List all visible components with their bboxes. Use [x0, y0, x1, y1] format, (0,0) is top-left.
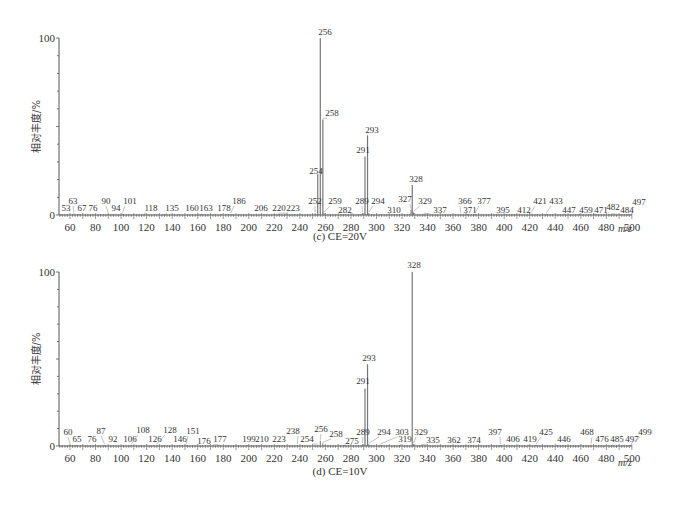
peak-label: 319 — [398, 434, 412, 444]
peak-label: 337 — [433, 205, 447, 215]
x-tick-label: 140 — [164, 452, 181, 464]
peak-label: 256 — [314, 424, 328, 434]
peak-label: 275 — [345, 436, 359, 446]
peak-label: 294 — [371, 196, 385, 206]
x-tick-label: 120 — [138, 452, 155, 464]
x-tick-label: 60 — [65, 452, 77, 464]
x-tick-label: 400 — [496, 221, 513, 233]
peak-label: 186 — [232, 196, 246, 206]
peak-label: 327 — [398, 194, 412, 204]
x-tick-label: 80 — [90, 452, 102, 464]
x-tick-label: 320 — [394, 452, 411, 464]
x-tick-label: 200 — [241, 452, 258, 464]
peak-label: 294 — [377, 427, 391, 437]
x-tick-label: 280 — [343, 452, 360, 464]
peak-label: 177 — [213, 434, 227, 444]
x-tick-label: 300 — [368, 452, 385, 464]
peak-label: 92 — [109, 434, 118, 444]
peak-label: 362 — [447, 435, 461, 445]
peak-label: 328 — [409, 174, 423, 184]
peak-label: 468 — [580, 427, 594, 437]
x-tick-label: 220 — [266, 452, 283, 464]
peak-label: 329 — [418, 196, 432, 206]
peak-label: 176 — [197, 436, 211, 446]
x-tick-label: 240 — [292, 221, 309, 233]
x-tick-label: 340 — [419, 221, 436, 233]
x-tick-label: 340 — [419, 452, 436, 464]
peak-label: 67 — [78, 203, 88, 213]
x-tick-label: 420 — [521, 452, 538, 464]
x-tick-label: 480 — [598, 452, 615, 464]
peak-label: 160 — [185, 203, 199, 213]
peak-label: 223 — [286, 203, 300, 213]
peak-label: 65 — [73, 434, 83, 444]
y-tick-label: 0 — [50, 440, 56, 452]
x-tick-label: 60 — [65, 221, 77, 233]
peak-label: 419 — [523, 434, 537, 444]
peak-label: 335 — [426, 435, 440, 445]
peak-label: 406 — [506, 434, 520, 444]
peak-label: 101 — [123, 196, 137, 206]
x-tick-label: 100 — [113, 452, 130, 464]
x-tick-label: 440 — [547, 452, 564, 464]
x-tick-label: 220 — [266, 221, 283, 233]
x-axis-title: m/z — [618, 223, 632, 234]
peak-label: 90 — [102, 196, 112, 206]
x-tick-label: 320 — [394, 221, 411, 233]
y-tick-label: 0 — [50, 209, 56, 221]
peak-label: 258 — [329, 429, 343, 439]
x-tick-label: 200 — [241, 221, 258, 233]
panel-caption: (d) CE=10V — [313, 465, 368, 478]
x-tick-label: 140 — [164, 221, 181, 233]
x-tick-label: 160 — [189, 221, 206, 233]
peak-label: 151 — [186, 426, 200, 436]
peak-label: 293 — [362, 353, 376, 363]
peak-label: 293 — [365, 125, 379, 135]
y-axis-title: 相对丰度/% — [30, 333, 42, 386]
x-tick-label: 120 — [138, 221, 155, 233]
peak-label: 206 — [254, 203, 268, 213]
peak-label: 289 — [356, 427, 370, 437]
peak-label: 425 — [539, 427, 553, 437]
x-tick-label: 440 — [547, 221, 564, 233]
x-tick-label: 240 — [292, 452, 309, 464]
x-tick-label: 400 — [496, 452, 513, 464]
peak-label: 499 — [638, 427, 652, 437]
x-tick-label: 420 — [521, 221, 538, 233]
x-axis-title: m/z — [618, 457, 632, 468]
peak-label: 282 — [338, 205, 352, 215]
peak-label: 328 — [407, 260, 421, 270]
y-tick-label: 100 — [39, 32, 56, 44]
peak-label: 377 — [477, 196, 491, 206]
peak-label: 254 — [300, 434, 314, 444]
x-tick-label: 300 — [368, 221, 385, 233]
peak-label: 289 — [355, 196, 369, 206]
peak-label: 371 — [463, 205, 477, 215]
peak-label: 485 — [610, 434, 624, 444]
peak-label: 397 — [488, 427, 502, 437]
peak-label: 199 — [242, 434, 256, 444]
peak-label: 291 — [356, 145, 370, 155]
y-axis-title: 相对丰度/% — [30, 100, 42, 153]
peak-label: 220 — [272, 203, 286, 213]
peak-label: 395 — [496, 205, 510, 215]
peak-label: 178 — [217, 203, 231, 213]
peak-label: 210 — [255, 434, 269, 444]
x-tick-label: 460 — [573, 452, 590, 464]
peak-label: 223 — [272, 434, 286, 444]
peak-label: 446 — [557, 434, 571, 444]
peak-label: 497 — [632, 197, 646, 207]
x-tick-label: 180 — [215, 221, 232, 233]
x-tick-label: 460 — [573, 221, 590, 233]
x-tick-label: 80 — [90, 221, 102, 233]
x-tick-label: 380 — [470, 221, 487, 233]
peak-label: 76 — [89, 203, 99, 213]
peak-label: 256 — [318, 27, 332, 37]
x-tick-label: 160 — [189, 452, 206, 464]
peak-label: 252 — [308, 196, 322, 206]
peak-label: 482 — [606, 202, 620, 212]
peak-label: 146 — [173, 434, 187, 444]
x-tick-label: 360 — [445, 221, 462, 233]
y-tick-label: 100 — [39, 266, 56, 278]
peak-label: 87 — [97, 426, 107, 436]
